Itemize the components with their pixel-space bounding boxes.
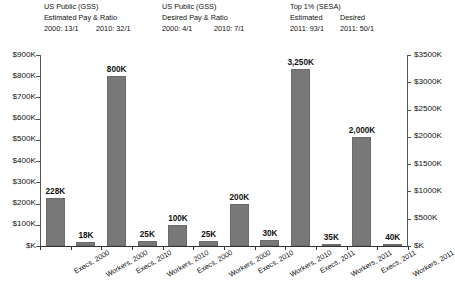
left-axis-line: [40, 55, 41, 246]
header-group-estimated: US Public (GSS) Estimated Pay & Ratio 20…: [44, 2, 131, 34]
bar: [46, 198, 65, 246]
plot-area: $K$100K$200K$300K$400K$500K$600K$700K$80…: [40, 55, 408, 246]
bar-value-label: 30K: [247, 229, 293, 238]
bar-value-label: 35K: [308, 233, 354, 242]
header-group-title: US Public (GSS): [162, 2, 244, 13]
left-axis-tick-label: $600K: [0, 113, 36, 122]
right-axis-tick-label: $2000K: [414, 131, 442, 140]
bar-value-label: 25K: [124, 230, 170, 239]
right-axis-tick: [407, 110, 411, 111]
bar: [230, 204, 249, 246]
bar-value-label: 40K: [370, 233, 416, 242]
right-axis-tick-label: $2500K: [414, 104, 442, 113]
left-axis-tick: [36, 140, 40, 141]
x-axis-category-labels: Execs, 2000Workers, 2000Execs, 2010Worke…: [0, 246, 448, 299]
header-group-ratios: 2011: 93/1 2011: 50/1: [290, 24, 374, 35]
right-axis-tick-label: $3000K: [414, 77, 442, 86]
right-axis-tick: [407, 164, 411, 165]
left-axis-tick-label: $800K: [0, 71, 36, 80]
left-axis-tick-label: $200K: [0, 198, 36, 207]
right-axis-line: [407, 55, 408, 246]
header-group-ratios: 2000: 4/1 2010: 7/1: [162, 24, 244, 35]
left-axis-tick-label: $400K: [0, 156, 36, 165]
bar-value-label: 228K: [32, 187, 78, 196]
right-axis-tick-label: $1500K: [414, 159, 442, 168]
header-subtitle-estimated: Estimated: [290, 13, 340, 24]
left-axis-tick: [36, 225, 40, 226]
left-axis-tick: [36, 204, 40, 205]
left-axis-tick-label: $500K: [0, 134, 36, 143]
header-group-subtitle: Estimated Pay & Ratio: [44, 13, 131, 24]
right-axis-tick-label: $500K: [414, 213, 437, 222]
bar-value-label: 100K: [155, 214, 201, 223]
header-group-title: US Public (GSS): [44, 2, 131, 13]
left-axis-tick: [36, 182, 40, 183]
left-axis-tick: [36, 119, 40, 120]
right-axis-tick: [407, 191, 411, 192]
bar-value-label: 3,250K: [278, 58, 324, 67]
header-ratio-right: 2010: 7/1: [214, 24, 244, 35]
header-group-subtitle: Estimated Desired: [290, 13, 374, 24]
right-axis-tick: [407, 219, 411, 220]
bar-value-label: 18K: [63, 231, 109, 240]
bar: [291, 69, 310, 246]
right-axis-tick: [407, 55, 411, 56]
left-axis-tick: [36, 76, 40, 77]
bar: [107, 76, 126, 246]
right-axis-tick: [407, 137, 411, 138]
bar-value-label: 200K: [216, 193, 262, 202]
header-subtitle-desired: Desired: [340, 13, 365, 24]
header-ratio-left: 2000: 13/1: [44, 24, 96, 35]
header-group-title: Top 1% (SESA): [290, 2, 374, 13]
right-axis-tick: [407, 82, 411, 83]
header-group-subtitle: Desired Pay & Ratio: [162, 13, 244, 24]
left-axis-tick: [36, 97, 40, 98]
left-axis-tick-label: $900K: [0, 50, 36, 59]
header-group-ratios: 2000: 13/1 2010: 32/1: [44, 24, 131, 35]
left-axis-tick-label: $300K: [0, 177, 36, 186]
left-axis-tick: [36, 161, 40, 162]
header-group-desired: US Public (GSS) Desired Pay & Ratio 2000…: [162, 2, 244, 34]
header-ratio-right: 2011: 50/1: [340, 24, 374, 35]
left-axis-tick-label: $100K: [0, 219, 36, 228]
right-axis-tick-label: $3500K: [414, 50, 442, 59]
bar-value-label: 25K: [186, 230, 232, 239]
header-ratio-left: 2000: 4/1: [162, 24, 214, 35]
x-axis-category-label: Workers, 2011: [411, 248, 455, 279]
bar-value-label: 2,000K: [339, 126, 385, 135]
left-axis-tick-label: $700K: [0, 92, 36, 101]
chart-header-groups: US Public (GSS) Estimated Pay & Ratio 20…: [0, 0, 448, 46]
bar-value-label: 800K: [94, 65, 140, 74]
header-group-top1-sesa: Top 1% (SESA) Estimated Desired 2011: 93…: [290, 2, 374, 34]
left-axis-tick: [36, 55, 40, 56]
bar: [352, 137, 371, 246]
header-ratio-left: 2011: 93/1: [290, 24, 340, 35]
bar: [168, 225, 187, 246]
header-ratio-right: 2010: 32/1: [96, 24, 131, 35]
right-axis-tick-label: $1000K: [414, 186, 442, 195]
